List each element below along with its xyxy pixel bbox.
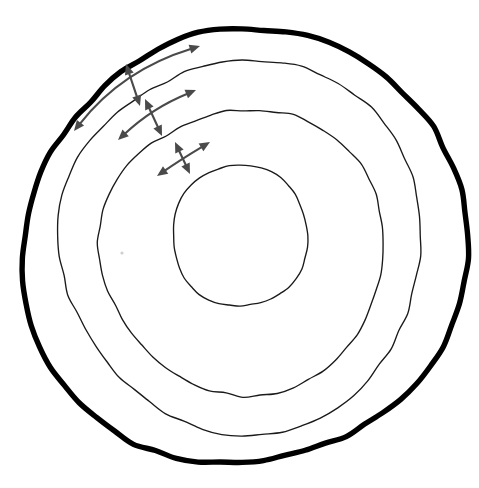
- figure-background: [0, 0, 479, 488]
- faint-speck: [120, 251, 123, 254]
- figure-root: [0, 0, 479, 488]
- growth-rings-figure: [0, 0, 479, 488]
- marks-group: [120, 251, 123, 254]
